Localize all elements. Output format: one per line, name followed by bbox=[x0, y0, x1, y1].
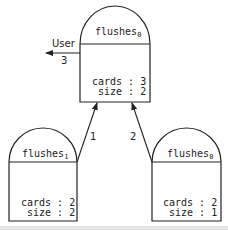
diagram-canvas: flushes0 cards : 3 size : 2 flushes1 car… bbox=[0, 0, 228, 230]
node-left: flushes1 cards : 2 size : 2 bbox=[9, 128, 77, 221]
node-top-title: flushes0 bbox=[95, 26, 141, 39]
node-left-field-size: size : 2 bbox=[21, 207, 75, 218]
node-left-title: flushes1 bbox=[22, 148, 68, 161]
node-right: flushes0 cards : 2 size : 1 bbox=[152, 128, 221, 221]
edge-right-label: 2 bbox=[130, 131, 136, 142]
node-right-field-size: size : 1 bbox=[163, 207, 217, 218]
node-top-field-size: size : 2 bbox=[92, 86, 146, 97]
user-label: User bbox=[52, 38, 76, 49]
edge-user-label: 3 bbox=[61, 55, 67, 66]
node-right-title: flushes0 bbox=[167, 148, 213, 161]
node-top: flushes0 cards : 3 size : 2 bbox=[80, 6, 150, 102]
bottom-strip bbox=[0, 226, 228, 230]
edge-left-label: 1 bbox=[90, 131, 96, 142]
